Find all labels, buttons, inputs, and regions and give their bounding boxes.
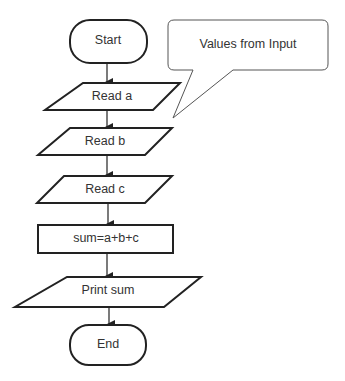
- callout-bubble: [168, 20, 328, 118]
- flowchart: Values from Input Start Read a Read b Re…: [0, 0, 345, 381]
- node-read-c: Read c: [37, 176, 172, 203]
- node-label: End: [97, 337, 119, 351]
- node-end: End: [70, 325, 146, 365]
- node-label: Start: [95, 33, 122, 47]
- node-sum: sum=a+b+c: [38, 225, 173, 253]
- node-label: Print sum: [82, 283, 135, 297]
- node-label: Read a: [92, 89, 132, 103]
- node-start: Start: [70, 20, 147, 63]
- node-label: Read b: [85, 134, 125, 148]
- node-label: sum=a+b+c: [73, 231, 139, 245]
- callout-values-from-input: Values from Input: [168, 20, 328, 118]
- callout-text: Values from Input: [199, 37, 297, 51]
- node-read-a: Read a: [45, 83, 180, 110]
- node-read-b: Read b: [38, 128, 172, 155]
- node-print-sum: Print sum: [15, 277, 201, 307]
- node-label: Read c: [85, 182, 125, 196]
